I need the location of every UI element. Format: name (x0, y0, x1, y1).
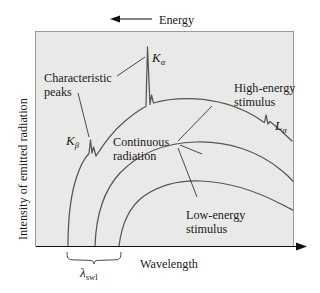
lambda-swl-brace-group (67, 252, 121, 264)
high-energy-stimulus-line2: stimulus (234, 95, 276, 109)
continuous-radiation-line1: Continuous (113, 135, 169, 149)
l-alpha-subscript: α (282, 125, 287, 135)
lambda-swl-subscript: swl (86, 272, 99, 282)
low-energy-stimulus-line1: Low-energy (186, 208, 246, 222)
low-energy-stimulus-line2: stimulus (186, 222, 228, 236)
x-axis-arrow-head (296, 243, 307, 251)
k-beta-subscript: β (74, 140, 80, 150)
energy-axis-group: Energy (110, 13, 195, 27)
xray-spectrum-figure: Energy Intensity of emitted radiation (0, 0, 320, 293)
high-energy-stimulus-line1: High-energy (234, 81, 296, 95)
continuous-radiation-line2: radiation (113, 149, 156, 163)
lambda-swl-label: λswl (79, 265, 98, 282)
energy-axis-label: Energy (159, 13, 195, 27)
lambda-swl-brace (67, 252, 121, 264)
l-alpha-symbol: L (274, 118, 282, 133)
characteristic-peaks-line1: Characteristic (44, 71, 112, 85)
k-alpha-subscript: α (161, 57, 166, 67)
y-axis-label: Intensity of emitted radiation (16, 98, 30, 240)
characteristic-peaks-line2: peaks (44, 85, 72, 99)
x-axis-label: Wavelength (140, 257, 198, 271)
energy-arrow-head (110, 15, 120, 22)
